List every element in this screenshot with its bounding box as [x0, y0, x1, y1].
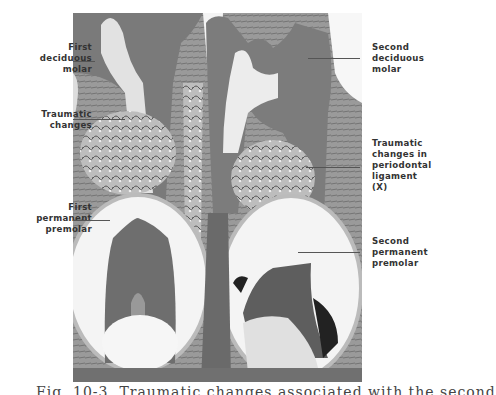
label-line: ligament	[372, 171, 432, 182]
label-first-permanent-premolar: First permanent premolar	[5, 202, 92, 235]
leader-line-traumatic-changes	[73, 119, 125, 120]
label-line: changes	[10, 120, 92, 131]
label-line: premolar	[372, 258, 432, 269]
histology-photo	[73, 13, 362, 382]
label-line: periodontal	[372, 160, 432, 171]
label-traumatic-changes-periodontal-ligament: Traumatic changes in periodontal ligamen…	[372, 138, 432, 193]
label-second-permanent-premolar: Second permanent premolar	[372, 236, 432, 269]
label-traumatic-changes: Traumatic changes	[10, 109, 92, 131]
label-first-deciduous-molar: First deciduous molar	[20, 42, 92, 75]
tooth-section-illustration	[73, 13, 362, 382]
leader-line-second-deciduous-molar	[308, 58, 360, 59]
figure-caption-truncated: Fig. 10-3. Traumatic changes associated …	[36, 384, 436, 395]
leader-line-traumatic-changes-periodontal	[306, 167, 360, 168]
label-line: premolar	[5, 224, 92, 235]
leader-line-first-permanent-premolar	[73, 220, 110, 221]
label-line: changes in	[372, 149, 432, 160]
label-line: permanent	[372, 247, 432, 258]
label-line: Traumatic	[372, 138, 432, 149]
label-line: (X)	[372, 182, 432, 193]
leader-line-second-permanent-premolar	[298, 252, 360, 253]
label-line: First	[20, 42, 92, 53]
label-line: deciduous	[372, 53, 432, 64]
label-second-deciduous-molar: Second deciduous molar	[372, 42, 432, 75]
label-line: permanent	[5, 213, 92, 224]
label-line: First	[5, 202, 92, 213]
label-line: molar	[372, 64, 432, 75]
label-line: Second	[372, 42, 432, 53]
label-line: Second	[372, 236, 432, 247]
label-line: deciduous	[20, 53, 92, 64]
leader-line-first-deciduous-molar	[73, 61, 95, 62]
label-line: molar	[20, 64, 92, 75]
